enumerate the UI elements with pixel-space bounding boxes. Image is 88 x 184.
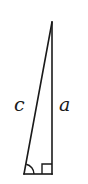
right-triangle-diagram: c a: [0, 0, 88, 184]
right-angle-marker: [42, 164, 52, 174]
vertical-leg-label: a: [59, 93, 70, 115]
angle-arc-marker: [26, 164, 34, 174]
hypotenuse-label: c: [14, 93, 25, 115]
hypotenuse-line: [24, 22, 52, 174]
